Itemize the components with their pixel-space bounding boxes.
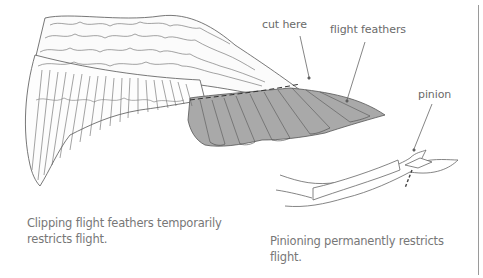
label-cut-here: cut here <box>262 18 307 31</box>
caption-clipping-line2: restricts flight. <box>27 231 222 247</box>
figure: cut here flight feathers pinion Clipping… <box>0 0 483 278</box>
wing-clipping-illustration <box>25 15 385 186</box>
caption-pinioning-line1: Pinioning permanently restricts <box>270 233 444 249</box>
pinioned-wing-illustration <box>276 150 458 207</box>
label-pinion: pinion <box>418 88 451 101</box>
caption-pinioning: Pinioning permanently restricts flight. <box>270 233 444 265</box>
divider-line <box>478 5 479 275</box>
caption-clipping-line1: Clipping flight feathers temporarily <box>27 215 222 231</box>
label-flight-feathers: flight feathers <box>330 23 406 36</box>
caption-clipping: Clipping flight feathers temporarily res… <box>27 215 222 247</box>
caption-pinioning-line2: flight. <box>270 249 444 265</box>
